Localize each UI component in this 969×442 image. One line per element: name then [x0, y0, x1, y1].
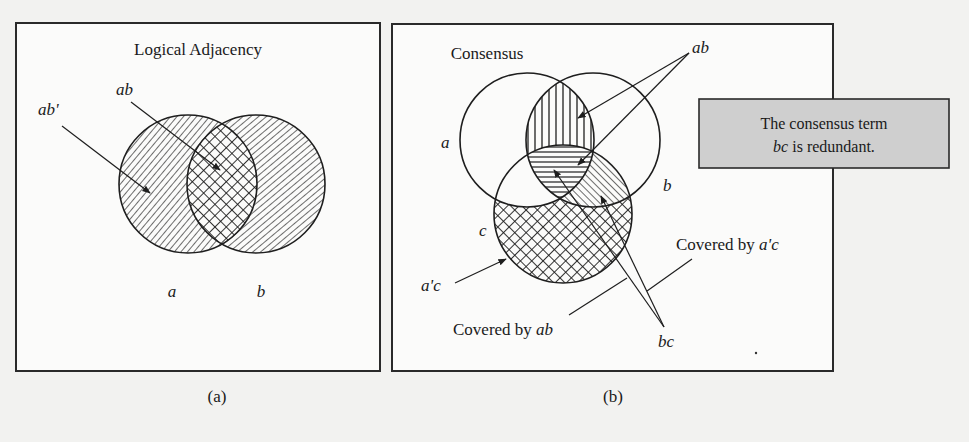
- speck: [755, 352, 757, 354]
- label-a: a: [168, 282, 177, 301]
- note-line-2: bc is redundant.: [773, 138, 875, 155]
- panel-a-title: Logical Adjacency: [134, 40, 262, 59]
- note-line-1: The consensus term: [760, 115, 888, 132]
- panel-b: Consensus: [392, 24, 833, 371]
- label-covered-by-ab: Covered by ab: [453, 320, 553, 339]
- caption-b: (b): [603, 387, 623, 406]
- note-box: The consensus term bc is redundant.: [699, 99, 949, 168]
- panel-b-title: Consensus: [451, 44, 524, 63]
- label-a: a: [441, 133, 450, 152]
- diagram-canvas: Logical Adjacency ab' ab a b (a) Consens…: [0, 0, 969, 442]
- label-ab-prime: ab': [38, 100, 59, 119]
- note-box-background: [699, 99, 949, 168]
- label-covered-by-a-prime-c: Covered by a'c: [676, 235, 779, 254]
- label-b: b: [663, 176, 672, 195]
- label-bc: bc: [658, 332, 675, 351]
- panel-a: Logical Adjacency ab' ab a b: [16, 23, 380, 371]
- label-ab: ab: [692, 38, 709, 57]
- label-b: b: [257, 282, 266, 301]
- label-a-prime-c: a'c: [421, 276, 441, 295]
- label-c: c: [479, 221, 487, 240]
- label-ab: ab: [116, 80, 133, 99]
- caption-a: (a): [208, 387, 227, 406]
